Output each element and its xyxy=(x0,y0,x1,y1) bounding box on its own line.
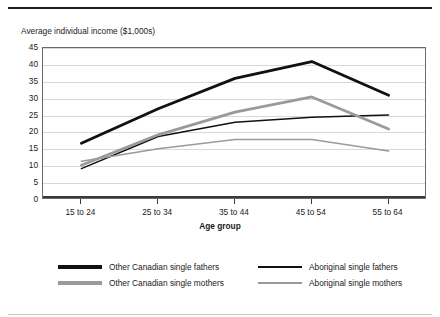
legend-item: Aboriginal single mothers xyxy=(258,278,402,288)
y-tick-label: 40 xyxy=(4,59,38,69)
chart-figure: Average individual income ($1,000s) 0510… xyxy=(0,0,440,317)
y-axis-ticks: 051015202530354045 xyxy=(0,47,38,199)
y-tick-label: 10 xyxy=(4,160,38,170)
y-tick-label: 0 xyxy=(4,194,38,204)
legend-swatch-icon xyxy=(258,266,302,268)
x-tick xyxy=(234,199,235,204)
x-tick-label: 45 to 54 xyxy=(271,207,351,217)
x-tick-label: 15 to 24 xyxy=(40,207,120,217)
chart-legend: Other Canadian single fathersAboriginal … xyxy=(0,262,440,294)
legend-swatch-icon xyxy=(58,281,102,284)
y-tick-label: 35 xyxy=(4,76,38,86)
series-layer xyxy=(43,48,427,200)
legend-label: Aboriginal single mothers xyxy=(309,278,402,288)
series-line xyxy=(81,62,388,144)
footer-rule xyxy=(8,314,432,315)
x-tick xyxy=(388,199,389,204)
legend-swatch-icon xyxy=(58,265,102,268)
legend-item: Aboriginal single fathers xyxy=(258,262,398,272)
legend-item: Other Canadian single mothers xyxy=(58,278,224,288)
legend-item: Other Canadian single fathers xyxy=(58,262,219,272)
x-tick-label: 55 to 64 xyxy=(348,207,428,217)
legend-row-fathers: Other Canadian single fathersAboriginal … xyxy=(0,262,440,278)
y-tick-label: 45 xyxy=(4,42,38,52)
y-tick-label: 25 xyxy=(4,110,38,120)
y-tick-label: 5 xyxy=(4,177,38,187)
legend-row-mothers: Other Canadian single mothersAboriginal … xyxy=(0,278,440,294)
x-tick xyxy=(311,199,312,204)
x-tick-label: 25 to 34 xyxy=(117,207,197,217)
legend-label: Other Canadian single mothers xyxy=(109,278,224,288)
series-line xyxy=(81,140,388,162)
series-line xyxy=(81,97,388,165)
y-tick-label: 30 xyxy=(4,93,38,103)
x-tick xyxy=(157,199,158,204)
plot-area xyxy=(42,47,426,199)
header-rule xyxy=(8,7,432,9)
x-axis-title: Age group xyxy=(0,221,440,231)
y-tick-label: 15 xyxy=(4,143,38,153)
legend-label: Other Canadian single fathers xyxy=(109,262,219,272)
y-tick-label: 20 xyxy=(4,126,38,136)
y-axis-title: Average individual income ($1,000s) xyxy=(21,26,155,36)
legend-label: Aboriginal single fathers xyxy=(309,262,398,272)
x-tick xyxy=(80,199,81,204)
clipped-figure-title xyxy=(8,0,432,6)
x-tick-label: 35 to 44 xyxy=(194,207,274,217)
legend-swatch-icon xyxy=(258,282,302,284)
